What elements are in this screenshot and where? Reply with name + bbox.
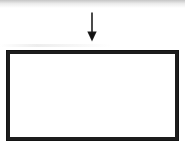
- scan-artifact-top-band: [0, 0, 185, 8]
- rectangle-interior: [10, 54, 175, 137]
- down-arrow-icon: [84, 12, 100, 42]
- figure-page: Figure 1: [0, 0, 185, 153]
- figure-caption: Figure 1: [0, 147, 185, 153]
- empty-rectangle: [6, 50, 179, 141]
- scan-artifact-mid-band: [0, 44, 185, 47]
